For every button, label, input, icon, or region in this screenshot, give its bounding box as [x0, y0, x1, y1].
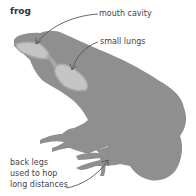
label-small-lungs: small lungs — [100, 37, 145, 47]
label-back-legs-2: used to hop — [10, 169, 57, 179]
frog-diagram: frog mouth cavity small lungs back legs … — [0, 0, 196, 196]
label-mouth-cavity: mouth cavity — [99, 9, 152, 19]
label-back-legs-3: long distances — [10, 180, 68, 190]
diagram-title: frog — [10, 6, 31, 16]
label-back-legs-1: back legs — [10, 158, 48, 168]
